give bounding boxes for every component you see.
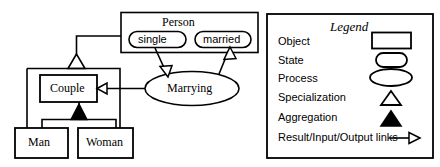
legend-item-links: Result/Input/Output links: [278, 132, 398, 143]
person-label: Person: [162, 16, 195, 28]
legend-rounded-rectangle-icon: [376, 53, 407, 67]
aggregation-fork: [42, 120, 116, 129]
legend-item-state: State: [278, 55, 304, 66]
single-label: single: [138, 34, 167, 45]
man-label: Man: [28, 136, 50, 148]
marrying-label: Marrying: [167, 82, 212, 94]
legend-item-aggregation: Aggregation: [278, 112, 337, 123]
aggregation-filled-triangle-icon: [71, 104, 87, 120]
diagram-canvas: Person single married Marrying Couple Ma…: [0, 0, 440, 167]
legend-rectangle-icon: [372, 33, 411, 49]
legend-title: Legend: [330, 20, 368, 33]
legend-item-specialization: Specialization: [278, 92, 346, 103]
married-label: married: [203, 34, 240, 45]
specialization-connector: [77, 36, 122, 55]
woman-label: Woman: [86, 136, 123, 148]
legend-item-process: Process: [278, 73, 318, 84]
legend-ellipse-icon: [370, 69, 412, 86]
legend-item-object: Object: [278, 36, 310, 47]
result-link-open-arrow-icon: [97, 83, 107, 94]
specialization-hollow-triangle-icon: [68, 54, 85, 69]
couple-label: Couple: [50, 82, 85, 94]
